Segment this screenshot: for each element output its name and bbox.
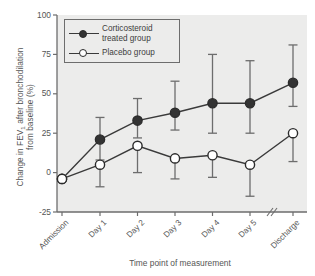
legend-label-corticosteroid-line2: treated group bbox=[102, 34, 151, 43]
data-point-corticosteroid bbox=[170, 108, 179, 117]
data-point-corticosteroid bbox=[133, 116, 142, 125]
data-point-corticosteroid bbox=[95, 135, 104, 144]
legend-item-corticosteroid: Corticosteroid treated group bbox=[69, 24, 153, 43]
data-point-placebo bbox=[288, 129, 297, 138]
legend-item-placebo: Placebo group bbox=[69, 47, 155, 59]
data-point-placebo bbox=[133, 141, 142, 150]
filled-circle-icon bbox=[69, 28, 99, 40]
data-point-placebo bbox=[95, 160, 104, 169]
legend-label-corticosteroid: Corticosteroid treated group bbox=[102, 24, 153, 43]
legend-label-corticosteroid-line1: Corticosteroid bbox=[102, 24, 153, 33]
data-point-corticosteroid bbox=[245, 99, 254, 108]
data-point-placebo bbox=[208, 151, 217, 160]
data-point-corticosteroid bbox=[208, 99, 217, 108]
data-point-corticosteroid bbox=[288, 78, 297, 87]
data-point-placebo bbox=[57, 174, 66, 183]
data-point-placebo bbox=[245, 160, 254, 169]
chart-container: Change in FEV1 after bronchodilation fro… bbox=[0, 0, 315, 276]
open-circle-icon bbox=[69, 47, 99, 59]
data-point-placebo bbox=[170, 154, 179, 163]
x-axis-title: Time point of measurement bbox=[60, 258, 300, 268]
chart-legend: Corticosteroid treated group Placebo gro… bbox=[64, 19, 180, 63]
legend-label-placebo: Placebo group bbox=[102, 48, 155, 58]
